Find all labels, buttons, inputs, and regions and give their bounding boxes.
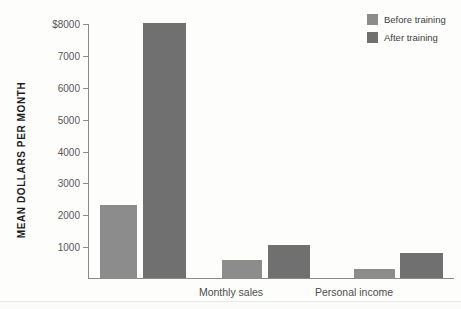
y-axis-tick <box>83 120 89 121</box>
y-axis-tick <box>83 88 89 89</box>
y-axis-tick-label: $8000 <box>28 19 80 30</box>
legend-label: After training <box>384 32 438 43</box>
x-axis-category-label: Monthly sales <box>199 286 263 298</box>
y-axis-tick-label: 3000 <box>28 178 80 189</box>
y-axis-tick-label: 2000 <box>28 210 80 221</box>
page-edge-band <box>0 302 461 309</box>
plot-area: 1000200030004000500060007000$8000Monthly… <box>88 24 454 279</box>
legend-swatch-icon <box>367 14 378 25</box>
bar-before <box>354 269 395 278</box>
legend-swatch-icon <box>367 32 378 43</box>
x-axis-line <box>88 278 454 279</box>
y-axis-title: MEAN DOLLARS PER MONTH <box>16 70 27 250</box>
y-axis-tick <box>83 24 89 25</box>
legend-label: Before training <box>384 14 446 25</box>
bar-before <box>100 205 137 278</box>
y-axis-tick <box>83 56 89 57</box>
y-axis-tick <box>83 183 89 184</box>
y-axis-tick-label: 5000 <box>28 114 80 125</box>
x-axis-category-label: Personal income <box>315 286 393 298</box>
y-axis-tick-label: 4000 <box>28 146 80 157</box>
bar-after <box>400 253 443 279</box>
y-axis-tick <box>83 215 89 216</box>
legend-item: Before training <box>367 14 446 25</box>
bar-chart: MEAN DOLLARS PER MONTH 10002000300040005… <box>0 0 461 309</box>
y-axis-tick-label: 1000 <box>28 242 80 253</box>
chart-legend: Before trainingAfter training <box>367 14 446 50</box>
y-axis-tick <box>83 152 89 153</box>
bar-after <box>268 245 310 278</box>
y-axis-tick <box>83 247 89 248</box>
y-axis-tick-label: 7000 <box>28 50 80 61</box>
bar-before <box>222 260 262 278</box>
bar-after <box>143 23 186 278</box>
y-axis-tick-label: 6000 <box>28 82 80 93</box>
legend-item: After training <box>367 32 446 43</box>
